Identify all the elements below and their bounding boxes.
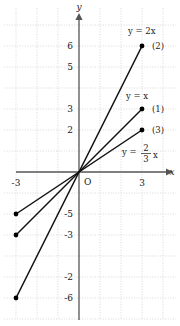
- x-tick-label-3: 3: [139, 178, 145, 188]
- series-marker-1: (1): [152, 104, 164, 114]
- series-marker-3: (3): [152, 125, 164, 135]
- curve-label-y-equals-x: y = x: [125, 91, 148, 101]
- y-tick-label-6: 6: [67, 41, 73, 51]
- coordinate-plane-figure: 6 5 3 2 -5 -3 -2 -6 -3 3 O x y y = 2x y …: [0, 0, 180, 326]
- two-thirds-numerator: 2: [143, 143, 148, 153]
- series-marker-2: (2): [152, 41, 164, 51]
- point-neg3-neg6: [14, 296, 19, 301]
- x-tick-label-neg3: -3: [12, 178, 21, 188]
- x-axis: [16, 168, 173, 175]
- y-tick-label-neg3: -3: [64, 230, 73, 240]
- origin-label: O: [84, 177, 91, 187]
- two-thirds-prefix: y =: [121, 147, 137, 157]
- y-tick-label-5: 5: [67, 62, 73, 72]
- two-thirds-suffix: x: [153, 150, 158, 160]
- point-3-2: [140, 128, 145, 133]
- point-neg3-neg2: [14, 212, 19, 217]
- y-axis-label: y: [75, 2, 82, 12]
- y-tick-label-neg2: -5: [64, 209, 73, 219]
- x-axis-label: x: [169, 167, 174, 177]
- y-tick-label-2: 2: [67, 125, 73, 135]
- y-tick-label-3: 3: [67, 104, 73, 114]
- two-thirds-denominator: 3: [143, 154, 148, 164]
- curve-label-y-equals-2x: y = 2x: [127, 26, 156, 36]
- y-tick-label-neg5: -2: [64, 272, 73, 282]
- y-tick-label-neg6: -6: [64, 293, 73, 303]
- graph-svg: 6 5 3 2 -5 -3 -2 -6 -3 3 O x y y = 2x y …: [0, 0, 180, 326]
- point-3-6: [140, 44, 145, 49]
- point-neg3-neg3: [14, 233, 19, 238]
- grid-vertical-lines: [16, 8, 163, 320]
- point-3-3: [140, 107, 145, 112]
- curve-label-y-equals-two-thirds-x: y = 2 3 x: [121, 143, 158, 164]
